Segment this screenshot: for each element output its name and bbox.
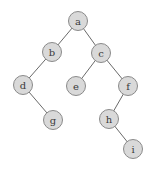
node-e: e <box>67 77 86 96</box>
node-c: c <box>92 44 111 63</box>
node-g-label: g <box>50 115 57 126</box>
node-e-label: e <box>73 81 79 92</box>
node-i-label: i <box>131 144 134 155</box>
node-h-label: h <box>106 114 113 125</box>
node-g: g <box>44 111 63 130</box>
node-c-label: c <box>98 48 104 59</box>
node-b-label: b <box>49 47 55 58</box>
node-d: d <box>14 76 33 95</box>
binary-tree-diagram: abcdefghi <box>0 0 155 171</box>
node-d-label: d <box>20 80 27 91</box>
node-i: i <box>124 140 143 159</box>
node-b: b <box>43 43 62 62</box>
node-a-label: a <box>75 16 81 27</box>
node-h: h <box>100 110 119 129</box>
node-f: f <box>119 77 138 96</box>
node-a: a <box>69 12 88 31</box>
